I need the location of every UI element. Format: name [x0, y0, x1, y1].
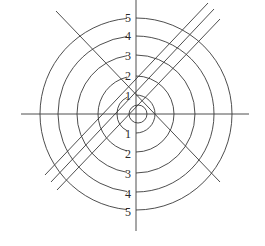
circle-label: 3 [125, 49, 131, 63]
circle-label: 5 [125, 11, 131, 25]
circle-label: 4 [125, 29, 131, 43]
circle-label: 4 [125, 187, 131, 201]
circle-label: 2 [125, 147, 131, 161]
circle-label: 3 [125, 167, 131, 181]
circle-label: 1 [125, 89, 131, 103]
parallel-line-2 [51, 9, 214, 182]
axes [21, 0, 249, 231]
circle-label: 1 [125, 127, 131, 141]
concentric-circle-diagram: 5432112345 [0, 0, 265, 246]
diagonal-lines [45, 3, 220, 190]
circle-label: 2 [125, 69, 131, 83]
anti-diagonal-line [56, 11, 220, 182]
diagram-canvas: 5432112345 [0, 0, 265, 246]
circle-label: 5 [125, 205, 131, 219]
